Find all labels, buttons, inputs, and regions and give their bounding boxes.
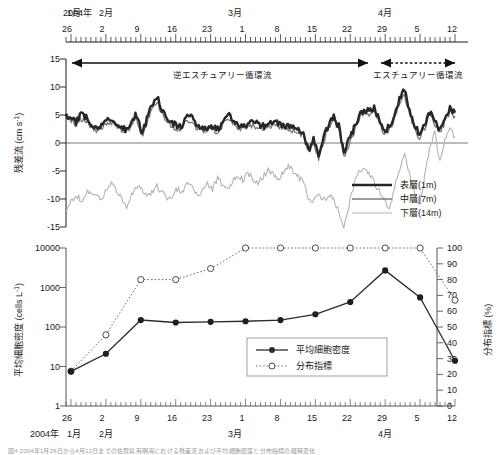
bottom-day-tick-4: 23 [202,413,212,423]
bottom-ytitle-right: 分布指標 (%) [482,304,493,357]
top-chart-y-ticks [60,59,66,227]
month-label-jan: 1月 [67,8,81,18]
top-day-tick-10: 5 [414,24,419,34]
top-axis-ticks [66,34,455,42]
data-point-index-1 [242,245,248,251]
top-chart-y-title: 残差流 (cm s-1) [13,113,24,173]
data-point-index-2 [103,332,109,338]
bottom-day-tick-5: 1 [239,413,244,423]
data-point-index-12 [452,297,458,303]
data-point-index-9 [138,277,144,283]
annotation-estuarine: エスチュアリー循環流 [373,59,463,80]
bottom-day-tick-10: 5 [414,413,419,423]
svg-text:残差流 (cm s-1): 残差流 (cm s-1) [13,113,24,173]
data-point-density-22 [347,299,353,305]
legend-label-bottom: 下層(14m) [400,208,442,218]
bottom-chart-legend: 平均細胞密度 分布指標 [247,338,387,376]
data-point-density-12 [452,358,458,364]
bottom-month-feb: 2月 [99,429,113,439]
top-ytick-label-2: 5 [55,110,60,120]
bottom-chart-y-title-left: 平均細胞密度 (cells L-1) [13,283,24,377]
bottom-ytitle-tail: ) [14,283,24,286]
data-point-index-8 [277,245,283,251]
bottom-ytick-left-0: 10000 [35,243,60,253]
bottom-chart-x-ticks [66,399,455,406]
top-day-tick-0: 26 [62,24,72,34]
bottom-ytick-right-5: 50 [447,322,457,332]
bottom-day-tick-9: 29 [377,413,387,423]
bottom-ytitle-main: 平均細胞密度 (cells L [13,292,24,377]
top-day-tick-9: 29 [377,24,387,34]
data-point-index-5 [417,245,423,251]
bottom-day-tick-0: 26 [62,413,72,423]
bottom-month-jan: 1月 [67,429,81,439]
bottom-ytick-right-2: 80 [447,275,457,285]
legend-marker-index [269,363,275,369]
month-label-mar: 3月 [228,8,242,18]
top-ytick-label-4: -5 [52,166,60,176]
top-ytitle-main: 残差流 (cm s [13,121,24,173]
data-point-density-16 [173,319,179,325]
bottom-month-mar: 3月 [228,429,242,439]
svg-text:平均細胞密度 (cells L-1): 平均細胞密度 (cells L-1) [13,283,24,377]
bottom-ytick-left-1: 1000 [40,283,60,293]
data-point-density-9 [138,317,144,323]
bottom-chart: 10000 1000 100 10 1 平均細胞密度 (cells L-1) 分… [13,243,493,411]
bottom-day-tick-3: 16 [167,413,177,423]
legend-label-density: 平均細胞密度 [296,344,350,355]
top-day-tick-5: 1 [239,24,244,34]
annotation-label-reverse: 逆エスチュアリー循環流 [173,70,272,80]
top-ytick-label-1: 10 [50,82,60,92]
bottom-day-tick-2: 9 [134,413,139,423]
data-point-index-29 [382,245,388,251]
legend-label-surface: 表層(1m) [400,179,437,190]
bottom-year-label: 2004年 [30,428,59,439]
bottom-date-axis: 26 2 9 16 23 1 8 15 22 29 5 12 2004年 1月 … [30,413,457,439]
top-day-tick-8: 22 [342,24,352,34]
month-label-feb: 2月 [99,8,113,18]
bottom-chart-y-right-labels: 1009080706050403020100 [447,243,462,411]
data-point-density-1 [242,318,248,324]
data-point-density-23 [208,319,214,325]
data-point-density-2 [103,351,109,357]
bottom-day-tick-1: 2 [99,413,104,423]
legend-marker-density [269,347,275,353]
data-point-index-16 [173,277,179,283]
top-day-tick-2: 9 [134,24,139,34]
top-day-tick-1: 2 [99,24,104,34]
bottom-month-apr: 4月 [378,429,392,439]
bottom-ytick-right-4: 60 [447,306,457,316]
data-point-density-8 [277,317,283,323]
bottom-chart-y-ticks-left [60,248,66,406]
legend-label-mid: 中層(7m) [400,193,437,204]
data-point-density-5 [417,294,423,300]
bottom-ytick-left-2: 100 [45,322,60,332]
figure-caption: 図4 2004年1月26日から4月12日までの佐賀県有明海における残差流および平… [8,446,503,455]
top-day-tick-6: 8 [274,24,279,34]
bottom-ytick-left-3: 10 [50,362,60,372]
top-date-axis: 2004年 1月 2月 3月 4月 26 2 9 16 23 1 8 15 22… [62,7,468,42]
data-point-density-15 [312,311,318,317]
bottom-day-tick-6: 8 [274,413,279,423]
month-label-apr: 4月 [378,8,392,18]
top-ytick-label-3: 0 [55,138,60,148]
bottom-chart-y-title-right: 分布指標 (%) [482,304,493,357]
data-point-index-22 [347,245,353,251]
top-ytick-label-6: -15 [47,222,60,232]
top-ytick-label-0: 15 [50,54,60,64]
data-point-index-15 [312,245,318,251]
annotation-reverse-estuarine: 逆エスチュアリー循環流 [72,59,368,80]
bottom-ytick-right-0: 100 [447,243,462,253]
bottom-ytick-left-4: 1 [55,401,60,411]
bottom-chart-y-ticks-right [437,248,443,406]
legend-label-index: 分布指標 [296,360,332,371]
top-day-tick-7: 15 [307,24,317,34]
bottom-day-tick-8: 22 [342,413,352,423]
data-point-density-26 [68,368,74,374]
series-line-surface-1m [66,90,455,157]
top-ytick-label-5: -10 [47,194,60,204]
top-chart: 15 10 5 0 -5 -10 -15 残差流 (cm s-1) [13,54,468,232]
annotation-label-estuarine: エスチュアリー循環流 [373,70,463,80]
